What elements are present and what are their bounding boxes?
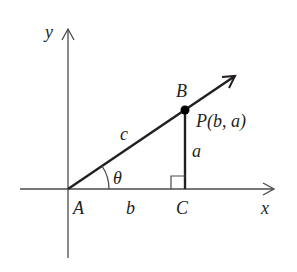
y-axis [62, 29, 74, 258]
x-axis [20, 183, 274, 195]
point-c-label: C [176, 198, 189, 218]
diagram-svg: y x A B C P(b, a) c b a θ [0, 0, 297, 272]
hypotenuse-ray [68, 76, 235, 189]
angle-theta-label: θ [113, 168, 122, 188]
point-b-label: B [176, 81, 187, 101]
side-a-label: a [192, 141, 201, 161]
right-angle-marker [171, 176, 185, 189]
point-b-dot [181, 106, 190, 115]
point-a-label: A [72, 198, 85, 218]
y-axis-label: y [43, 22, 53, 42]
x-axis-label: x [260, 198, 269, 218]
angle-arc [102, 166, 109, 189]
point-p-label: P(b, a) [195, 111, 246, 132]
side-c-label: c [120, 124, 128, 144]
ray-arrow-icon [222, 76, 235, 88]
side-b-label: b [126, 198, 135, 218]
triangle-diagram: y x A B C P(b, a) c b a θ [0, 0, 297, 272]
